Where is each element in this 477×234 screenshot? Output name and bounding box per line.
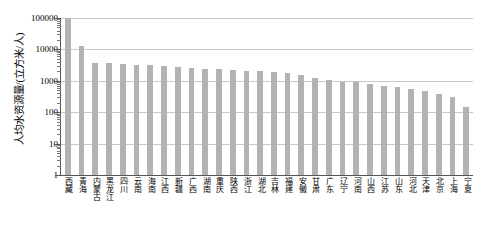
- y-axis-minor-tick: [57, 148, 61, 149]
- bar: [202, 69, 208, 175]
- x-axis-tick-label: 辽宁: [338, 177, 346, 193]
- x-axis-tick-label: 新疆: [173, 177, 181, 193]
- y-axis-minor-tick: [57, 93, 61, 94]
- y-axis-minor-tick: [57, 125, 61, 126]
- bar: [353, 82, 359, 175]
- bar: [326, 80, 332, 175]
- bars-layer: [61, 18, 473, 175]
- x-axis-tick-label: 吉林: [269, 177, 277, 193]
- y-axis-minor-tick: [57, 156, 61, 157]
- y-axis-minor-tick: [57, 153, 61, 154]
- y-axis-minor-tick: [57, 88, 61, 89]
- x-axis-tick-label: 北京: [434, 177, 442, 193]
- y-axis-minor-tick: [57, 119, 61, 120]
- x-axis-tick-label: 浙江: [242, 177, 250, 193]
- y-axis-major-tick: [55, 175, 61, 176]
- x-axis-tick-label: 湖南: [201, 177, 209, 193]
- x-axis-tick-label: 青海: [77, 177, 85, 193]
- x-axis-tick-label: 山西: [366, 177, 374, 193]
- y-axis-minor-tick: [57, 115, 61, 116]
- x-axis-tick-label: 宁夏: [462, 177, 470, 193]
- bar: [65, 18, 71, 175]
- bar: [120, 64, 126, 175]
- x-axis-tick-label: 江苏: [379, 177, 387, 193]
- bar: [463, 107, 469, 175]
- y-axis-minor-tick: [57, 134, 61, 135]
- y-axis-minor-tick: [57, 147, 61, 148]
- bar: [367, 84, 373, 175]
- bar: [436, 94, 442, 175]
- x-axis-tick-label: 湖北: [256, 177, 264, 193]
- y-axis-tick-labels: 100000100001000100101: [20, 0, 58, 234]
- y-axis-minor-tick: [57, 27, 61, 28]
- bar: [79, 46, 85, 175]
- y-axis-minor-tick: [57, 23, 61, 24]
- bar: [450, 97, 456, 175]
- bar: [175, 67, 181, 175]
- x-axis-tick-label: 内蒙古: [91, 177, 99, 201]
- bar: [312, 78, 318, 175]
- y-axis-minor-tick: [57, 19, 61, 20]
- bar: [395, 87, 401, 175]
- x-axis-tick-label: 福建: [283, 177, 291, 193]
- bar: [147, 65, 153, 175]
- bar: [271, 72, 277, 175]
- y-axis-minor-tick: [57, 82, 61, 83]
- bar: [92, 63, 98, 175]
- y-axis-minor-tick: [57, 86, 61, 87]
- y-axis-minor-tick: [57, 103, 61, 104]
- y-axis-minor-tick: [57, 25, 61, 26]
- y-axis-minor-tick: [57, 90, 61, 91]
- x-axis-tick-label: 河北: [407, 177, 415, 193]
- x-axis-tick-labels: 西藏青海内蒙古黑龙江四川云南海南江西新疆广西湖南重庆陕西浙江湖北吉林福建安徽甘肃…: [61, 177, 473, 234]
- x-axis-tick-label: 上海: [448, 177, 456, 193]
- bar: [106, 63, 112, 175]
- x-axis-spine: [60, 175, 473, 176]
- y-axis-minor-tick: [57, 21, 61, 22]
- y-axis-minor-tick: [57, 54, 61, 55]
- y-axis-minor-tick: [57, 62, 61, 63]
- x-axis-tick-label: 山东: [393, 177, 401, 193]
- x-axis-tick-label: 江西: [160, 177, 168, 193]
- bar: [422, 91, 428, 175]
- bar: [408, 89, 414, 175]
- x-axis-tick-label: 广西: [187, 177, 195, 193]
- y-axis-minor-tick: [57, 52, 61, 53]
- y-axis-minor-tick: [57, 56, 61, 57]
- x-axis-tick-label: 四川: [118, 177, 126, 193]
- y-axis-minor-tick: [57, 40, 61, 41]
- x-axis-tick-label: 甘肃: [311, 177, 319, 193]
- x-axis-tick-label: 广东: [324, 177, 332, 193]
- y-axis-minor-tick: [57, 31, 61, 32]
- bar: [257, 71, 263, 175]
- y-axis-minor-tick: [57, 160, 61, 161]
- bar: [189, 68, 195, 175]
- x-axis-tick-label: 西藏: [63, 177, 71, 193]
- x-axis-tick-label: 陕西: [228, 177, 236, 193]
- y-axis-minor-tick: [57, 151, 61, 152]
- y-axis-minor-tick: [57, 166, 61, 167]
- y-axis-minor-tick: [57, 51, 61, 52]
- x-axis-tick-label: 河南: [352, 177, 360, 193]
- bar: [285, 73, 291, 175]
- bar: [244, 71, 250, 175]
- bar: [298, 75, 304, 175]
- y-axis-minor-tick: [57, 66, 61, 67]
- x-axis-tick-label: 黑龙江: [105, 177, 113, 201]
- x-axis-tick-label: 云南: [132, 177, 140, 193]
- y-axis-minor-tick: [57, 114, 61, 115]
- bar: [381, 86, 387, 175]
- x-axis-tick-label: 海南: [146, 177, 154, 193]
- y-axis-minor-tick: [57, 145, 61, 146]
- y-axis-minor-tick: [57, 129, 61, 130]
- y-axis-minor-tick: [57, 59, 61, 60]
- water-resources-bar-chart: 人均水资源量/(立方米/人) 100000100001000100101 西藏青…: [0, 0, 477, 234]
- y-axis-minor-tick: [57, 84, 61, 85]
- y-axis-minor-tick: [57, 71, 61, 72]
- bar: [340, 82, 346, 176]
- x-axis-tick-label: 安徽: [297, 177, 305, 193]
- bar: [216, 69, 222, 175]
- y-axis-minor-tick: [57, 97, 61, 98]
- y-axis-minor-tick: [57, 122, 61, 123]
- y-axis-minor-tick: [57, 117, 61, 118]
